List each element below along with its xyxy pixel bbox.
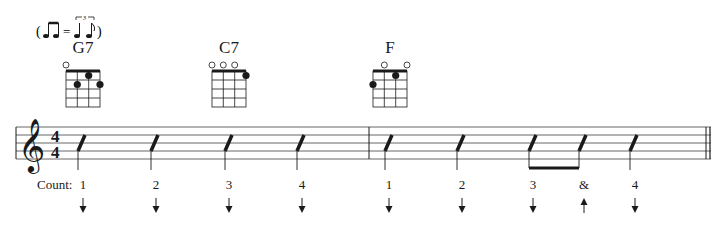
finger-dot: [74, 81, 81, 88]
finger-dot: [392, 72, 399, 79]
open-string-marker: [232, 62, 238, 68]
strum-arrows: [80, 198, 639, 213]
finger-dot: [96, 81, 103, 88]
count-beat: 4: [625, 177, 645, 193]
open-string-marker: [63, 62, 69, 68]
count-beat: 1: [379, 177, 399, 193]
staff: [16, 127, 711, 159]
time-signature-bottom: 4: [51, 143, 60, 162]
slash-note: [225, 135, 232, 170]
strum-down-arrow-icon: [80, 198, 87, 213]
open-string-marker: [209, 62, 215, 68]
count-beat: 1: [73, 177, 93, 193]
slash-note: [630, 135, 637, 170]
count-label: Count:: [37, 177, 72, 193]
open-string-marker: [404, 62, 410, 68]
count-beat-and: &: [574, 177, 594, 193]
strum-up-arrow-icon: [581, 198, 588, 213]
slash-note: [297, 135, 304, 170]
finger-dot: [369, 81, 376, 88]
count-beat: 3: [219, 177, 239, 193]
count-beat: 3: [523, 177, 543, 193]
strum-down-arrow-icon: [226, 198, 233, 213]
chord-diagram-c7: [209, 62, 250, 107]
strum-down-arrow-icon: [459, 198, 466, 213]
strum-down-arrow-icon: [530, 198, 537, 213]
rhythm-slashes: [78, 135, 637, 170]
strum-down-arrow-icon: [632, 198, 639, 213]
slash-note: [385, 135, 392, 170]
finger-dot: [242, 72, 249, 79]
chord-diagram-g7: [63, 62, 104, 107]
open-string-marker: [220, 62, 226, 68]
count-beat: 4: [292, 177, 312, 193]
count-beat: 2: [452, 177, 472, 193]
slash-note: [151, 135, 158, 170]
count-beat: 2: [146, 177, 166, 193]
chord-diagram-f: [369, 62, 410, 107]
notation-canvas: 𝄞 4 4: [0, 0, 727, 229]
strum-down-arrow-icon: [299, 198, 306, 213]
strum-down-arrow-icon: [153, 198, 160, 213]
treble-clef-icon: 𝄞: [18, 118, 45, 174]
beamed-eighth-pair: [529, 135, 586, 168]
open-string-marker: [381, 62, 387, 68]
slash-note: [457, 135, 464, 170]
strum-down-arrow-icon: [386, 198, 393, 213]
slash-note: [78, 135, 85, 170]
finger-dot: [85, 72, 92, 79]
